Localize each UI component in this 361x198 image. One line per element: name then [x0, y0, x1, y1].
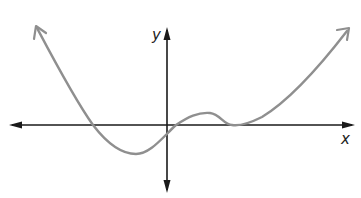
graph-canvas — [0, 0, 361, 198]
function-curve — [34, 26, 349, 154]
y-axis — [164, 27, 171, 193]
curve-right-arrow-icon — [337, 28, 349, 40]
x-axis-right-arrow-icon — [342, 122, 355, 129]
function-graph: y x — [0, 0, 361, 198]
y-axis-label: y — [152, 28, 161, 43]
y-axis-up-arrow-icon — [164, 27, 171, 40]
x-axis-left-arrow-icon — [9, 122, 22, 129]
x-axis-label: x — [341, 132, 350, 147]
y-axis-down-arrow-icon — [164, 180, 171, 193]
